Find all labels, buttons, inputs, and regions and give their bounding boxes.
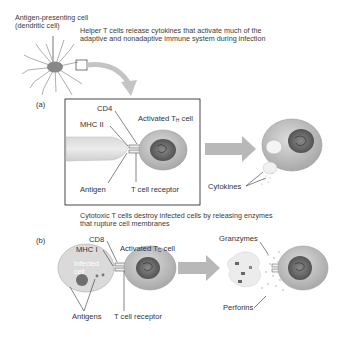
infected-nucleus-icon — [76, 274, 88, 286]
panel-a-caption-line2: adaptive and nonadaptive immune system d… — [80, 35, 265, 43]
vesicle-icon — [266, 140, 282, 154]
antigen-label: Antigen — [80, 185, 106, 194]
activated-tc-label: Activated TC cell — [120, 244, 175, 253]
infected-label-line2: cell — [74, 268, 85, 275]
nucleus-icon — [288, 129, 314, 153]
panel-b-caption-line2: that rupture cell membranes — [80, 220, 170, 228]
nucleus-icon — [150, 139, 176, 161]
tcr-label-b: T cell receptor — [114, 312, 162, 321]
cd8-label: CD8 — [89, 235, 104, 244]
activated-tc-prefix: Activated T — [120, 244, 158, 253]
cytokines-cloud-icon — [263, 162, 277, 174]
arrowhead-icon — [121, 80, 137, 96]
ruptured-cell-icon — [227, 252, 260, 287]
cd4-label: CD4 — [97, 104, 112, 113]
nucleus-icon — [136, 257, 160, 279]
antigen-dot-icon — [96, 275, 99, 278]
antigens-label: Antigens — [72, 312, 102, 321]
nucleus-icon — [288, 256, 312, 280]
granzymes-label: Granzymes — [219, 234, 258, 243]
perforins-label: Perforins — [223, 303, 253, 312]
right-arrow-a-icon — [205, 136, 256, 162]
leader-lines-cytokines — [246, 172, 266, 186]
right-arrow-b-icon — [178, 255, 220, 281]
apc-label-line2: (dendritic cell) — [15, 22, 60, 30]
infected-label-line1: Infected — [74, 260, 99, 267]
panel-a-letter: (a) — [36, 100, 45, 109]
antigen-dot-icon — [102, 274, 105, 277]
activated-th-suffix: cell — [179, 114, 193, 123]
panel-b-letter: (b) — [36, 236, 45, 245]
curved-arrow-icon — [87, 65, 128, 82]
mhc-ii-label: MHC II — [80, 120, 104, 129]
apc-extension-icon — [66, 137, 128, 161]
cytokines-label: Cytokines — [208, 182, 241, 191]
activated-th-label: Activated TH cell — [138, 114, 193, 123]
mhc-i-label: MHC I — [76, 245, 98, 254]
cytokine-dots-icon — [261, 172, 272, 184]
activated-tc-suffix: cell — [161, 244, 175, 253]
tcr-label-a: T cell receptor — [131, 185, 179, 194]
dendritic-cell-body-icon — [47, 62, 63, 73]
zoom-box-icon — [76, 60, 87, 70]
immune-diagram-graphics — [0, 0, 340, 339]
activated-th-prefix: Activated T — [138, 114, 176, 123]
